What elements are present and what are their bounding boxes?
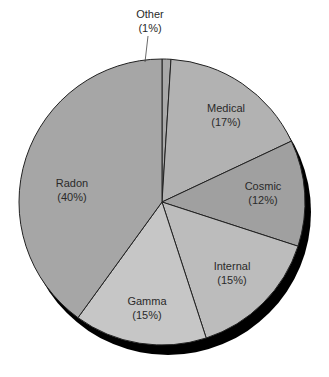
- slice-label-internal: Internal: [214, 260, 251, 272]
- pie-chart: Other(1%)Medical(17%)Cosmic(12%)Internal…: [0, 0, 329, 377]
- slice-percent-other: (1%): [138, 22, 161, 34]
- slice-label-gamma: Gamma: [127, 295, 167, 307]
- leader-line-other: [145, 36, 148, 62]
- slice-label-other: Other: [136, 8, 164, 20]
- slice-percent-medical: (17%): [211, 116, 240, 128]
- slice-label-medical: Medical: [207, 102, 245, 114]
- slice-label-cosmic: Cosmic: [245, 180, 282, 192]
- slice-label-radon: Radon: [56, 177, 88, 189]
- slice-percent-cosmic: (12%): [248, 194, 277, 206]
- slice-percent-radon: (40%): [57, 191, 86, 203]
- slice-percent-gamma: (15%): [132, 309, 161, 321]
- slice-percent-internal: (15%): [217, 274, 246, 286]
